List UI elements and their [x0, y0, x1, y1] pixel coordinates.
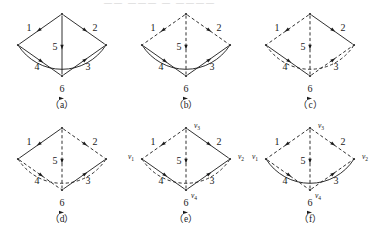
- vertex-label-v1: v1: [252, 152, 258, 163]
- vertex-label-v3: v3: [194, 121, 200, 132]
- figure-panel-grid: 123456（a）123456（b）123456（c）123456（d）1234…: [0, 0, 373, 228]
- edge-arrowhead: [184, 45, 187, 50]
- vertex-node-v2: [105, 44, 107, 46]
- edge-label-3: 3: [210, 61, 215, 72]
- edge-label-3: 3: [210, 175, 215, 186]
- edge-label-6: 6: [60, 197, 65, 208]
- edge-label-5: 5: [301, 155, 306, 166]
- vertex-label-v1: v1: [128, 152, 134, 163]
- edge-arrowhead: [330, 142, 335, 146]
- vertex-label-v4: v4: [315, 191, 321, 202]
- edge-arrowhead: [60, 159, 63, 164]
- edge-label-3: 3: [334, 175, 339, 186]
- edge-arrowhead: [37, 142, 42, 146]
- edge-label-5: 5: [53, 155, 58, 166]
- edge-label-6: 6: [60, 83, 65, 94]
- edge-arrowhead: [82, 28, 87, 32]
- panel-caption-b: （b）: [124, 97, 248, 111]
- edge-arrowhead: [308, 45, 311, 50]
- edge-label-2: 2: [217, 136, 222, 147]
- vertex-node-v2: [229, 158, 231, 160]
- edge-label-6: 6: [184, 197, 189, 208]
- edge-label-4: 4: [35, 175, 40, 186]
- panel-caption-f: （f）: [248, 211, 373, 225]
- edge-label-1: 1: [275, 22, 280, 33]
- edge-label-4: 4: [159, 61, 164, 72]
- edge-arrowhead: [330, 28, 335, 32]
- vertex-node-v1: [265, 44, 267, 46]
- edge-label-5: 5: [177, 41, 182, 52]
- edge-label-3: 3: [86, 175, 91, 186]
- vertex-node-v4: [61, 75, 63, 77]
- edge-label-6: 6: [184, 83, 189, 94]
- vertex-node-v2: [353, 44, 355, 46]
- edge-label-2: 2: [341, 136, 346, 147]
- vertex-node-v1: [265, 158, 267, 160]
- edge-arrowhead: [206, 142, 211, 146]
- panel-caption-e: （e）: [124, 211, 248, 225]
- edge-arrowhead: [184, 159, 187, 164]
- panel-caption-c: （c）: [248, 97, 373, 111]
- edge-label-3: 3: [334, 61, 339, 72]
- edge-label-5: 5: [177, 155, 182, 166]
- edge-label-4: 4: [35, 61, 40, 72]
- edge-label-2: 2: [93, 22, 98, 33]
- edge-label-3: 3: [86, 61, 91, 72]
- panel-caption-d: （d）: [0, 211, 124, 225]
- edge-arrowhead: [308, 159, 311, 164]
- vertex-node-v3: [185, 13, 187, 15]
- edge-label-6: 6: [308, 83, 313, 94]
- vertex-node-v1: [141, 158, 143, 160]
- edge-label-2: 2: [341, 22, 346, 33]
- vertex-node-v4: [185, 75, 187, 77]
- vertex-label-v2: v2: [238, 152, 244, 163]
- figure-panel-e: 123456v1v2v3v4（e）: [124, 114, 248, 228]
- edge-arrowhead: [285, 142, 290, 146]
- vertex-label-v3: v3: [318, 121, 324, 132]
- edge-label-4: 4: [159, 175, 164, 186]
- vertex-node-v3: [309, 13, 311, 15]
- edge-arrowhead: [161, 28, 166, 32]
- edge-label-1: 1: [151, 136, 156, 147]
- vertex-node-v3: [309, 127, 311, 129]
- edge-label-1: 1: [275, 136, 280, 147]
- vertex-node-v3: [185, 127, 187, 129]
- edge-arrowhead: [60, 45, 63, 50]
- edge-arrowhead: [285, 28, 290, 32]
- edge-label-6: 6: [308, 197, 313, 208]
- edge-arrowhead: [82, 142, 87, 146]
- figure-panel-f: 123456v1v2v3v4（f）: [248, 114, 373, 228]
- vertex-node-v1: [17, 44, 19, 46]
- vertex-node-v4: [309, 75, 311, 77]
- edge-label-2: 2: [217, 22, 222, 33]
- panel-caption-a: （a）: [0, 97, 124, 111]
- edge-arrowhead: [161, 142, 166, 146]
- vertex-node-v4: [309, 189, 311, 191]
- vertex-node-v3: [61, 13, 63, 15]
- vertex-node-v1: [141, 44, 143, 46]
- vertex-node-v2: [229, 44, 231, 46]
- vertex-node-v3: [61, 127, 63, 129]
- figure-panel-a: 123456（a）: [0, 0, 124, 114]
- vertex-node-v1: [17, 158, 19, 160]
- vertex-node-v2: [353, 158, 355, 160]
- edge-label-4: 4: [283, 61, 288, 72]
- edge-label-5: 5: [301, 41, 306, 52]
- edge-label-4: 4: [283, 175, 288, 186]
- vertex-node-v2: [105, 158, 107, 160]
- vertex-node-v4: [61, 189, 63, 191]
- edge-arrowhead: [37, 28, 42, 32]
- figure-panel-c: 123456（c）: [248, 0, 373, 114]
- edge-label-1: 1: [151, 22, 156, 33]
- figure-panel-d: 123456（d）: [0, 114, 124, 228]
- vertex-label-v2: v2: [362, 152, 368, 163]
- edge-label-2: 2: [93, 136, 98, 147]
- edge-arrowhead: [206, 28, 211, 32]
- figure-panel-b: 123456（b）: [124, 0, 248, 114]
- vertex-label-v4: v4: [191, 191, 197, 202]
- edge-label-5: 5: [53, 41, 58, 52]
- edge-label-1: 1: [27, 136, 32, 147]
- vertex-node-v4: [185, 189, 187, 191]
- edge-label-1: 1: [27, 22, 32, 33]
